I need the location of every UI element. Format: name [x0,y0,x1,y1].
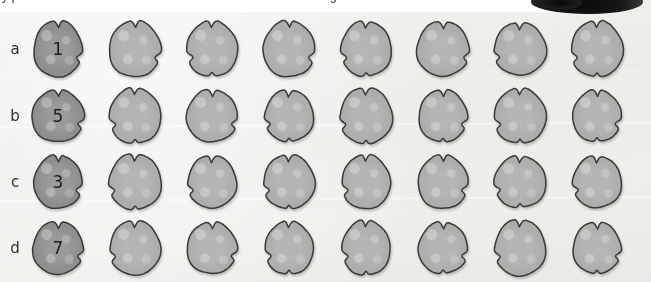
specimen-cell-b1[interactable]: 5 [26,84,90,148]
specimen-cell-a4[interactable] [257,17,321,81]
brain-specimen-icon [180,150,244,214]
brain-specimen-icon [411,84,475,148]
row-label-c: c [4,173,26,191]
brain-specimen-icon [565,216,629,280]
specimen-cell-a8[interactable] [565,17,629,81]
row-label-a: a [4,40,26,58]
specimen-cell-c2[interactable] [103,150,167,214]
specimen-cell-b2[interactable] [103,84,167,148]
specimen-cell-c6[interactable] [411,150,475,214]
specimen-cell-a2[interactable] [103,17,167,81]
brain-specimen-icon [180,17,244,81]
brain-specimen-icon [26,216,90,280]
brain-specimen-icon [103,84,167,148]
specimen-cell-d3[interactable] [180,216,244,280]
specimen-cell-a3[interactable] [180,17,244,81]
brain-specimen-icon [411,216,475,280]
specimen-cell-c4[interactable] [257,150,321,214]
specimen-cell-c8[interactable] [565,150,629,214]
specimen-cell-a6[interactable] [411,17,475,81]
figure-canvas: y p g 1537 abcd [0,0,651,282]
brain-specimen-icon [26,150,90,214]
brain-specimen-icon [257,216,321,280]
brain-specimen-icon [103,17,167,81]
specimen-cell-d6[interactable] [411,216,475,280]
specimen-cell-d8[interactable] [565,216,629,280]
specimen-cell-d1[interactable]: 7 [26,216,90,280]
specimen-cell-b3[interactable] [180,84,244,148]
brain-specimen-icon [257,84,321,148]
specimen-cell-c1[interactable]: 3 [26,150,90,214]
brain-specimen-icon [488,17,552,81]
specimen-cell-a7[interactable] [488,17,552,81]
specimen-cell-b7[interactable] [488,84,552,148]
specimen-cell-d7[interactable] [488,216,552,280]
specimen-cell-c7[interactable] [488,150,552,214]
specimen-cell-d4[interactable] [257,216,321,280]
specimen-cell-a5[interactable] [334,17,398,81]
brain-specimen-icon [565,150,629,214]
scan-band [0,70,651,74]
brain-specimen-icon [257,150,321,214]
brain-specimen-icon [180,216,244,280]
scan-band [0,121,651,128]
brain-specimen-icon [257,17,321,81]
specimen-cell-b4[interactable] [257,84,321,148]
brain-specimen-icon [334,216,398,280]
brain-specimen-icon [180,84,244,148]
scan-band [0,196,651,202]
specimen-cell-c3[interactable] [180,150,244,214]
row-label-d: d [4,239,26,257]
brain-specimen-icon [565,17,629,81]
caption-strip: y p g [0,0,587,12]
specimen-cell-c5[interactable] [334,150,398,214]
caption-text-right: g [330,0,337,3]
specimen-cell-d2[interactable] [103,216,167,280]
specimen-cell-b5[interactable] [334,84,398,148]
brain-specimen-icon [26,17,90,81]
brain-specimen-icon [488,84,552,148]
caption-text-left: y p [2,0,19,3]
specimen-cell-b6[interactable] [411,84,475,148]
specimen-cell-b8[interactable] [565,84,629,148]
row-label-b: b [4,107,26,125]
brain-specimen-icon [488,150,552,214]
brain-specimen-icon [334,17,398,81]
specimen-cell-a1[interactable]: 1 [26,17,90,81]
brain-specimen-icon [26,84,90,148]
specimen-cell-d5[interactable] [334,216,398,280]
brain-specimen-icon [103,150,167,214]
brain-specimen-icon [103,216,167,280]
brain-specimen-icon [411,150,475,214]
brain-specimen-icon [334,150,398,214]
brain-specimen-icon [565,84,629,148]
brain-specimen-icon [334,84,398,148]
brain-specimen-icon [411,17,475,81]
brain-specimen-icon [488,216,552,280]
